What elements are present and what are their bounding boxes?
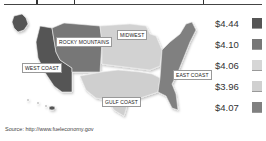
legend-item: $3.96 — [213, 78, 266, 99]
source-note: Source: http://www.fueleconomy.gov — [5, 126, 94, 132]
legend-swatch — [252, 60, 262, 71]
legend-item: $4.44 — [213, 15, 266, 36]
legend-value: $4.44 — [215, 18, 239, 29]
title-fragment — [36, 0, 38, 4]
legend-value: $3.96 — [215, 81, 239, 92]
legend-item: $4.10 — [213, 36, 266, 57]
region-hawaii — [49, 106, 55, 110]
label-east-coast: EAST COAST — [173, 70, 212, 80]
title-fragment — [203, 0, 204, 4]
label-midwest: MIDWEST — [117, 30, 147, 40]
title-fragment — [74, 0, 75, 4]
legend-value: $4.06 — [215, 60, 239, 71]
title-rule — [4, 4, 262, 5]
label-gulf-coast: GULF COAST — [102, 97, 141, 107]
region-east-coast — [158, 22, 196, 110]
label-rocky-mountains: ROCKY MOUNTAINS — [56, 37, 112, 47]
legend-swatch — [252, 81, 262, 92]
legend-item: $4.06 — [213, 57, 266, 78]
legend-swatch — [252, 102, 262, 113]
legend-value: $4.07 — [215, 102, 239, 113]
legend-item: $4.07 — [213, 99, 266, 120]
region-alaska — [12, 14, 28, 32]
label-west-coast: WEST COAST — [22, 63, 62, 73]
legend: $4.44 $4.10 $4.06 $3.96 $4.07 — [213, 15, 266, 120]
legend-swatch — [252, 18, 262, 29]
legend-swatch — [252, 39, 262, 50]
region-gulf-coast — [80, 70, 160, 116]
legend-value: $4.10 — [215, 39, 239, 50]
